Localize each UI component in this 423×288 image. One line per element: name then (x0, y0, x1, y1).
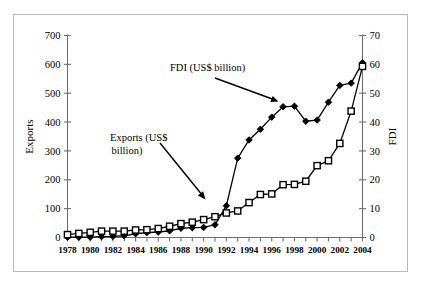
exports-data-point (348, 108, 354, 114)
exports-data-point (110, 228, 116, 234)
exports-data-point (359, 63, 365, 69)
fdi-annotation-arrow (215, 78, 275, 100)
y2-axis-tick-label: 30 (370, 146, 381, 157)
x-axis-tick-label: 1984 (126, 245, 145, 255)
exports-data-point (201, 217, 207, 223)
chart-svg: 0100200300400500600700010203040506070197… (0, 0, 423, 288)
x-axis-tick-label: 1998 (285, 245, 304, 255)
exports-data-point (280, 182, 286, 188)
exports-data-point (223, 210, 229, 216)
y2-axis-tick-label: 70 (370, 30, 381, 41)
exports-data-point (291, 181, 297, 187)
x-axis-tick-label: 1996 (263, 245, 282, 255)
exports-data-point (167, 223, 173, 229)
y2-axis-tick-label: 20 (370, 174, 381, 185)
plot-area: 0100200300400500600700010203040506070197… (0, 0, 423, 288)
y2-axis-tick-label: 0 (370, 232, 375, 243)
exports-data-point (189, 219, 195, 225)
exports-data-point (76, 230, 82, 236)
exports-data-point (269, 191, 275, 197)
exports-data-point (246, 199, 252, 205)
x-axis-tick-label: 2004 (353, 245, 372, 255)
fdi-data-point (348, 80, 354, 86)
exports-data-point (337, 140, 343, 146)
exports-data-point (132, 227, 138, 233)
y2-axis-tick-label: 10 (370, 203, 381, 214)
y-axis-tick-label: 700 (45, 30, 61, 41)
exports-annotation-arrowhead (198, 191, 206, 199)
fdi-annotation-label: FDI (US$ billion) (170, 62, 246, 74)
y-axis-tick-label: 300 (45, 146, 61, 157)
x-axis-tick-label: 1978 (58, 245, 77, 255)
exports-data-point (155, 225, 161, 231)
exports-data-point (325, 158, 331, 164)
exports-data-point (314, 163, 320, 169)
exports-data-point (121, 228, 127, 234)
fdi-annotation-arrowhead (270, 96, 278, 102)
y2-axis-tick-label: 40 (370, 117, 381, 128)
exports-data-point (144, 227, 150, 233)
x-axis-tick-label: 1988 (172, 245, 191, 255)
fdi-data-point (314, 117, 320, 123)
x-axis-tick-label: 1980 (81, 245, 100, 255)
x-axis-tick-label: 2000 (308, 245, 327, 255)
y2-axis-title: FDI (386, 127, 398, 145)
y2-axis-tick-label: 50 (370, 88, 381, 99)
x-axis-tick-label: 1994 (240, 245, 259, 255)
exports-data-point (212, 214, 218, 220)
x-axis-tick-label: 2002 (331, 245, 350, 255)
y-axis-title: Exports (23, 119, 35, 153)
exports-data-point (98, 228, 104, 234)
y-axis-tick-label: 0 (55, 232, 60, 243)
y-axis-tick-label: 400 (45, 117, 61, 128)
y-axis-tick-label: 100 (45, 203, 61, 214)
chart-figure: 0100200300400500600700010203040506070197… (0, 0, 423, 288)
exports-annotation-label-line1: Exports (US$ (110, 132, 167, 144)
y-axis-tick-label: 200 (45, 174, 61, 185)
exports-data-point (178, 221, 184, 227)
fdi-data-point (200, 224, 206, 230)
fdi-data-point (223, 203, 229, 209)
y-axis-tick-label: 500 (45, 88, 61, 99)
x-axis-tick-label: 1990 (194, 245, 213, 255)
fdi-data-point (212, 222, 218, 228)
x-axis-tick-label: 1986 (149, 245, 168, 255)
y2-axis-tick-label: 60 (370, 59, 381, 70)
exports-data-point (87, 229, 93, 235)
exports-data-point (257, 191, 263, 197)
exports-data-point (303, 178, 309, 184)
x-axis-tick-label: 1992 (217, 245, 236, 255)
exports-annotation-arrow (160, 143, 203, 196)
exports-annotation-label-line2: billion) (112, 145, 143, 157)
y-axis-tick-label: 600 (45, 59, 61, 70)
x-axis-tick-label: 1982 (104, 245, 123, 255)
exports-data-point (64, 232, 70, 238)
fdi-data-point (234, 155, 240, 161)
exports-data-point (235, 208, 241, 214)
